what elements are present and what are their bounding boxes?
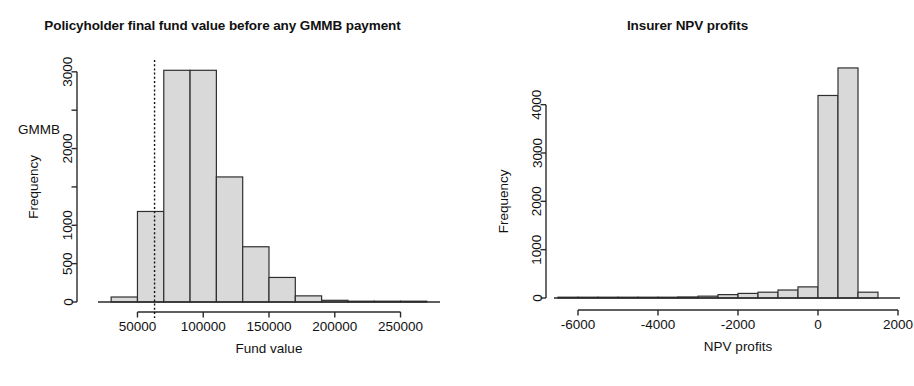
histogram-bar (243, 247, 269, 302)
y-axis-title-left: Frequency (26, 155, 41, 219)
x-tick-label: -2000 (721, 317, 756, 332)
right-panel-group: 01000200030004000-6000-4000-200002000 NP… (496, 68, 913, 354)
histogram-bar (778, 290, 798, 298)
x-tick-label: 100000 (181, 319, 226, 334)
plot-area-right: 01000200030004000-6000-4000-200002000 NP… (457, 0, 914, 386)
panel-insurer-npv-profits: Insurer NPV profits 01000200030004000-60… (457, 0, 914, 386)
panel-policyholder-fund-value: Policyholder final fund value before any… (0, 0, 457, 386)
left-histogram-svg: 0500100020003000500001000001500002000002… (0, 0, 457, 386)
y-tick-label: 3000 (61, 57, 76, 87)
y-tick-label: 500 (61, 252, 76, 275)
x-axis-title-right: NPV profits (704, 339, 773, 354)
y-axis-title-right: Frequency (496, 169, 511, 233)
y-tick-label: 2000 (530, 186, 545, 216)
x-tick-label: 50000 (119, 319, 157, 334)
histogram-bar (798, 287, 818, 298)
x-tick-label: 0 (814, 317, 822, 332)
histogram-bar (111, 297, 137, 302)
left-bar-series (98, 70, 440, 302)
x-axis-title-left: Fund value (236, 341, 303, 356)
x-tick-label: 2000 (883, 317, 913, 332)
right-histogram-svg: 01000200030004000-6000-4000-200002000 NP… (457, 0, 914, 386)
y-tick-label: 4000 (530, 90, 545, 120)
y-tick-label: 1000 (61, 210, 76, 240)
histogram-bar (216, 177, 242, 302)
right-bar-series (554, 68, 900, 298)
histogram-bar (758, 292, 778, 298)
y-tick-label: 0 (530, 294, 545, 302)
x-tick-label: 250000 (378, 319, 423, 334)
x-tick-label: 200000 (312, 319, 357, 334)
histogram-bar (295, 296, 321, 302)
histogram-bar (818, 95, 838, 298)
y-tick-label: 0 (61, 298, 76, 306)
histogram-bar (190, 70, 216, 302)
y-tick-label: 2000 (61, 134, 76, 164)
y-tick-label: 3000 (530, 138, 545, 168)
histogram-bar (838, 68, 858, 298)
histogram-bar (858, 292, 878, 298)
x-tick-label: -4000 (641, 317, 676, 332)
x-tick-label: -6000 (561, 317, 596, 332)
histogram-bar (137, 211, 163, 302)
y-tick-label: 1000 (530, 235, 545, 265)
x-tick-label: 150000 (246, 319, 291, 334)
plot-area-left: 0500100020003000500001000001500002000002… (0, 0, 457, 386)
histogram-bar (269, 277, 295, 302)
gmmb-annotation-label: GMMB (18, 122, 60, 137)
histogram-bar (164, 70, 190, 302)
